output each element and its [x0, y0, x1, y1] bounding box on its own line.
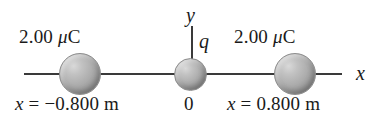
right-charge-sphere	[274, 53, 316, 95]
center-charge-q-label: q	[199, 31, 209, 51]
left-charge-magnitude-label: 2.00 μC	[19, 27, 81, 46]
right-charge-magnitude-label: 2.00 μC	[234, 27, 296, 46]
right-charge-position-label: x = 0.800 m	[227, 94, 320, 113]
y-axis-label: y	[186, 5, 195, 25]
x-axis-label: x	[356, 63, 365, 83]
center-charge-sphere	[174, 58, 207, 91]
origin-label: 0	[184, 94, 194, 113]
physics-diagram-figure: x y 2.00 μC 2.00 μC q x = −0.800 m 0 x =…	[0, 0, 387, 126]
left-charge-position-label: x = −0.800 m	[15, 94, 119, 113]
left-charge-sphere	[59, 53, 101, 95]
